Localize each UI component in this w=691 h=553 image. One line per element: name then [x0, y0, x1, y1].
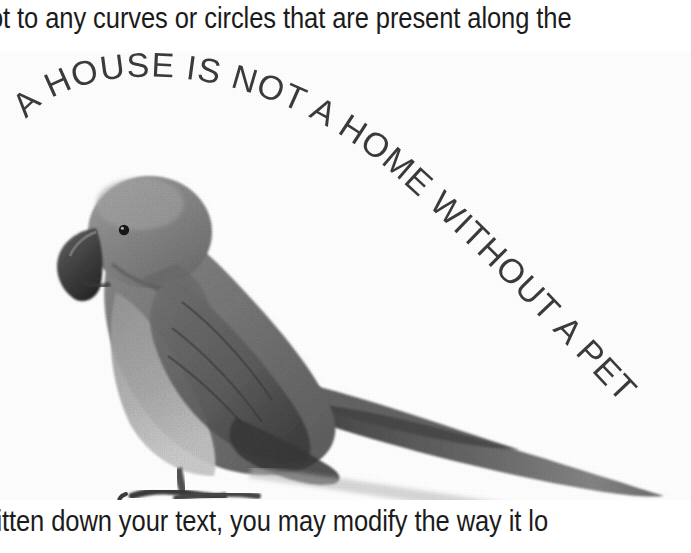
parrot-artwork: A HOUSE IS NOT A HOME WITHOUT A PET — [0, 52, 691, 500]
parrot-toe-claw — [119, 494, 126, 500]
body-text-line-top: ot to any curves or circles that are pre… — [0, 2, 572, 35]
parrot-artwork-svg: A HOUSE IS NOT A HOME WITHOUT A PET — [0, 52, 691, 500]
parrot-eye — [119, 225, 129, 235]
parrot-crown-highlight — [96, 178, 184, 230]
parrot-eye-highlight — [121, 227, 124, 230]
document-page: ot to any curves or circles that are pre… — [0, 0, 691, 553]
parrot-undertail-shadow — [250, 472, 540, 500]
parrot-beak — [57, 228, 103, 301]
body-text-line-bottom: ritten down your text, you may modify th… — [0, 505, 548, 538]
